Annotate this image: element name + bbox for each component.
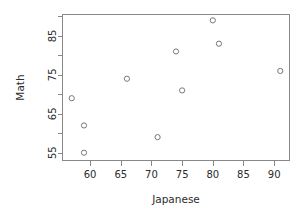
data-point-9 [278, 68, 283, 73]
y-tick-label-85: 85 [47, 30, 58, 43]
x-tick-label-65: 65 [114, 169, 127, 180]
data-point-6 [180, 88, 185, 93]
data-point-5 [173, 49, 178, 54]
data-point-4 [155, 135, 160, 140]
x-axis-title: Japanese [151, 193, 200, 205]
data-point-0 [69, 96, 74, 101]
data-point-7 [210, 18, 215, 23]
x-tick-label-60: 60 [84, 169, 97, 180]
y-axis-title: Math [14, 74, 26, 100]
y-tick-label-65: 65 [47, 107, 58, 120]
data-point-1 [81, 123, 86, 128]
x-tick-label-75: 75 [176, 169, 189, 180]
data-point-3 [124, 76, 129, 81]
scatter-plot-figure: 6065707580859055657585JapaneseMath [0, 0, 301, 220]
data-point-8 [216, 41, 221, 46]
y-tick-label-75: 75 [47, 68, 58, 81]
plot-canvas: 6065707580859055657585JapaneseMath [0, 0, 301, 220]
x-tick-label-70: 70 [145, 169, 158, 180]
y-tick-label-55: 55 [47, 146, 58, 159]
x-tick-label-80: 80 [206, 169, 219, 180]
plot-frame [63, 15, 290, 161]
data-point-2 [81, 150, 86, 155]
x-tick-label-85: 85 [237, 169, 250, 180]
x-tick-label-90: 90 [268, 169, 281, 180]
